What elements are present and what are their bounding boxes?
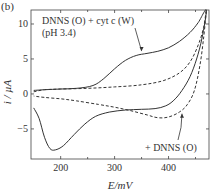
- y-tick-label: 0: [23, 88, 28, 99]
- y-tick-label: 5: [23, 53, 28, 64]
- y-tick-label: 10: [18, 18, 28, 29]
- annotation-ph: (pH 3.4): [42, 27, 76, 39]
- y-axis-label: i / µA: [1, 79, 13, 104]
- x-tick-label: 200: [53, 162, 68, 173]
- annotations: DNNS (O) + cyt c (W)(pH 3.4)+ DNNS (O): [42, 15, 197, 154]
- x-tick-label: 300: [107, 162, 122, 173]
- cyclic-voltammogram-chart: 200300400 1050−5 DNNS (O) + cyt c (W)(pH…: [0, 0, 212, 193]
- y-tick-label: −5: [17, 123, 28, 134]
- annotation-dnns: + DNNS (O): [145, 142, 197, 154]
- x-tick-label: 400: [161, 162, 176, 173]
- arrowhead-icon: [140, 47, 144, 51]
- arrowhead-icon: [180, 114, 184, 118]
- x-axis-label: E/mV: [107, 179, 134, 191]
- annotation-cytc: DNNS (O) + cyt c (W): [42, 15, 134, 27]
